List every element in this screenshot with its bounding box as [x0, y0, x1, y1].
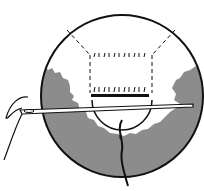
stitch-bar: [91, 94, 149, 97]
sewing-diagram: [0, 0, 204, 191]
needle-eye: [24, 110, 34, 113]
thread: [4, 97, 28, 160]
